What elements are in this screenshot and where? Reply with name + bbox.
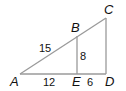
measure-ae: 12 (43, 76, 55, 88)
vertex-label-b: B (71, 20, 80, 35)
vertex-label-e: E (72, 74, 81, 89)
vertex-label-d: D (105, 74, 114, 89)
vertex-label-a: A (9, 74, 19, 89)
measure-ed: 6 (87, 76, 93, 88)
measure-ab: 15 (39, 42, 51, 54)
triangle-diagram: A B C D E 15 8 12 6 (0, 0, 126, 91)
vertex-label-c: C (104, 2, 114, 17)
measure-be: 8 (80, 50, 86, 62)
segment-ac (20, 18, 106, 74)
